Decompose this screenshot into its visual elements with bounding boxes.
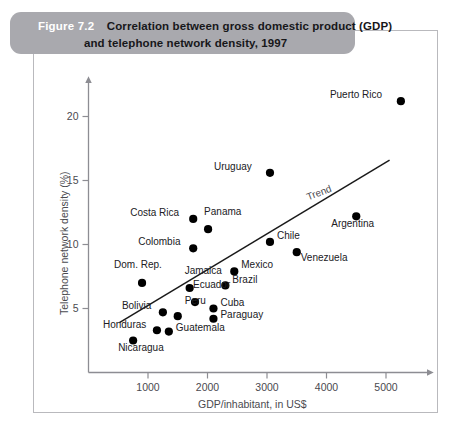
x-axis-tick-label: 2000 (192, 381, 224, 393)
x-axis-tick-label: 3000 (251, 381, 283, 393)
data-point-marker (189, 244, 197, 252)
scatter-plot: 100020003000400050005101520GDP/inhabitan… (0, 0, 463, 446)
data-point-marker (165, 327, 173, 335)
data-point-label: Panama (204, 206, 241, 217)
data-point-label: Argentina (331, 218, 374, 229)
data-point-label: Dom. Rep. (114, 259, 162, 270)
data-point-label: Brazil (232, 274, 257, 285)
data-point-label: Guatemala (176, 322, 225, 333)
data-point-label: Peru (185, 295, 206, 306)
figure-container: Figure 7.2 Correlation between gross dom… (0, 0, 463, 446)
data-point-label: Jamaica (185, 265, 222, 276)
data-point-label: Uruguay (214, 161, 252, 172)
axes (83, 82, 429, 379)
data-point-marker (209, 304, 217, 312)
data-point-marker (204, 225, 212, 233)
x-axis-tick-label: 1000 (132, 381, 164, 393)
data-point-label: Venezuela (301, 252, 348, 263)
data-point-marker (266, 238, 274, 246)
data-point-label: Chile (277, 230, 300, 241)
data-point-label: Nicaragua (118, 342, 164, 353)
data-point-marker (174, 312, 182, 320)
data-point-label: Mexico (241, 259, 273, 270)
data-point-marker (159, 308, 167, 316)
data-point-label: Costa Rica (130, 207, 179, 218)
data-point-marker (138, 279, 146, 287)
data-point-marker (189, 215, 197, 223)
data-point-label: Bolivia (122, 300, 151, 311)
y-axis-tick-label: 20 (53, 110, 79, 122)
data-point-label: Colombia (138, 236, 180, 247)
x-axis-tick-label: 5000 (370, 381, 402, 393)
y-axis-title: Telephone network density (%) (58, 171, 70, 315)
data-point-label: Cuba (220, 297, 244, 308)
x-axis-title: GDP/inhabitant, in US$ (198, 398, 307, 410)
data-point-marker (293, 248, 301, 256)
data-point-label: Puerto Rico (330, 89, 382, 100)
data-point-marker (266, 169, 274, 177)
x-axis-tick-label: 4000 (311, 381, 343, 393)
data-point-marker (153, 326, 161, 334)
data-point-marker (397, 97, 405, 105)
data-point-label: Ecuador (193, 279, 230, 290)
data-point-label: Honduras (103, 319, 146, 330)
data-point-label: Paraguay (220, 309, 263, 320)
